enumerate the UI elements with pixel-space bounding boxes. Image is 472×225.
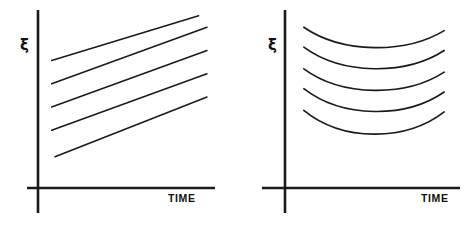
data-series-line-3	[52, 51, 207, 107]
x-axis-label: TIME	[421, 193, 448, 204]
data-series-curve-1	[304, 27, 444, 47]
data-series-curve-4	[304, 89, 444, 112]
series-group-right	[304, 27, 444, 134]
data-series-curve-5	[304, 110, 444, 134]
axes-left	[27, 10, 215, 213]
data-series-line-4	[52, 74, 207, 130]
chart-panel-left: ξ TIME	[0, 0, 236, 225]
data-series-curve-3	[304, 69, 444, 91]
figure-root: ξ TIME ξ TIME	[0, 0, 472, 225]
data-series-curve-2	[304, 47, 444, 69]
y-axis-label: ξ	[268, 38, 277, 53]
y-axis-label: ξ	[20, 38, 29, 53]
data-series-line-5	[55, 97, 207, 157]
data-series-line-2	[52, 27, 207, 83]
chart-canvas-left	[0, 0, 236, 225]
chart-panel-right: ξ TIME	[236, 0, 472, 225]
x-axis-label: TIME	[168, 193, 195, 204]
series-group-left	[52, 16, 207, 157]
